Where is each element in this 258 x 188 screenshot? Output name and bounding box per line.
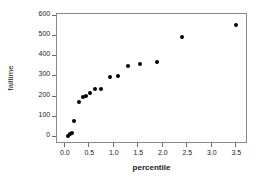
x-tick-mark — [186, 143, 187, 147]
x-tick-label: 3.0 — [202, 149, 222, 157]
x-tick-label: 3.5 — [226, 149, 246, 157]
x-tick-mark — [64, 143, 65, 147]
x-tick-label: 0.5 — [79, 149, 99, 157]
data-point — [116, 74, 120, 78]
x-tick-mark — [88, 143, 89, 147]
x-tick-mark — [162, 143, 163, 147]
data-point — [126, 64, 130, 68]
y-tick-mark — [52, 75, 56, 76]
y-tick-label: 100 — [39, 111, 50, 118]
plot-area — [56, 13, 247, 143]
y-axis-title: failtime — [4, 13, 17, 143]
x-tick-mark — [113, 143, 114, 147]
y-tick-mark — [52, 35, 56, 36]
x-tick-mark — [211, 143, 212, 147]
y-tick-mark — [52, 136, 56, 137]
data-point — [84, 94, 88, 98]
y-tick-label: 400 — [39, 50, 50, 57]
scatter-chart: 0100200300400500600 failtime 0.00.51.01.… — [0, 0, 258, 188]
data-point — [93, 87, 97, 91]
data-point — [70, 131, 74, 135]
x-axis: 0.00.51.01.52.02.53.03.5 — [0, 143, 258, 163]
data-point — [108, 75, 112, 79]
x-tick-label: 2.0 — [153, 149, 173, 157]
data-point — [88, 91, 92, 95]
data-point — [77, 100, 81, 104]
data-point — [234, 23, 238, 27]
x-tick-mark — [235, 143, 236, 147]
y-tick-label: 200 — [39, 91, 50, 98]
y-tick-label: 300 — [39, 70, 50, 77]
data-point — [180, 35, 184, 39]
data-point — [72, 119, 76, 123]
x-tick-label: 0.0 — [55, 149, 75, 157]
y-tick-mark — [52, 15, 56, 16]
y-tick-mark — [52, 116, 56, 117]
y-tick-label: 500 — [39, 30, 50, 37]
x-tick-mark — [137, 143, 138, 147]
data-point — [99, 87, 103, 91]
y-tick-mark — [52, 96, 56, 97]
x-tick-label: 1.0 — [104, 149, 124, 157]
y-tick-label: 0 — [46, 131, 50, 138]
y-tick-label: 600 — [39, 10, 50, 17]
y-tick-mark — [52, 55, 56, 56]
x-tick-label: 2.5 — [177, 149, 197, 157]
x-axis-title: percentile — [56, 163, 247, 173]
data-point — [155, 60, 159, 64]
data-point — [138, 62, 142, 66]
x-tick-label: 1.5 — [128, 149, 148, 157]
